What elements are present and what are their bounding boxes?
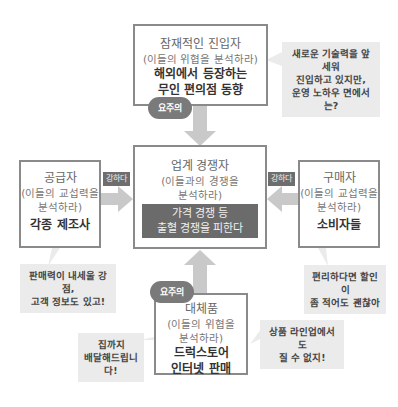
substitutes-sub-2: 분석하라) [156, 331, 246, 345]
bubble-line: 운영 노하우 면에서는? [288, 86, 374, 112]
substitutes-bold-1: 드럭스토어 [156, 345, 246, 361]
suppliers-sub-2: 분석하라) [21, 200, 99, 214]
bubble-line: 판매력이 내세울 강점, [26, 269, 110, 295]
caution-badge-bottom: 요주의 [152, 283, 192, 301]
suppliers-comment-bubble: 판매력이 내세울 강점, 고객 정보도 있고! [20, 264, 116, 313]
bubble-line: 질 수 없지! [266, 351, 338, 364]
bubble-line: 집까지 [84, 338, 138, 351]
substitutes-bold-2: 인터넷 판매 [156, 361, 246, 377]
suppliers-sub-1: (이들의 교섭력을 [21, 186, 99, 200]
bubble-line: 새로운 기술력을 앞세워 [288, 47, 374, 73]
buyers-sub-2: 분석하라) [300, 200, 378, 214]
substitutes-comment-bubble-right: 상품 라인업에서도 질 수 없지! [260, 320, 344, 369]
bubble-line: 상품 라인업에서도 [266, 325, 338, 351]
substitutes-title: 대체품 [156, 301, 246, 317]
bubble-line: 편리하다면 할인이 [310, 270, 380, 296]
suppliers-title: 공급자 [21, 170, 99, 186]
substitutes-box: 대체품 (이들의 위협을 분석하라) 드럭스토어 인터넷 판매 [154, 293, 248, 375]
highlight-line-1: 가격 경쟁 등 [142, 206, 258, 221]
bubble-line: 좀 적어도 괜찮아 [310, 296, 380, 309]
strong-tag-left: 강하다 [103, 172, 130, 186]
caution-badge-top: 요주의 [150, 99, 190, 117]
competitors-sub-2: 분석하라) [135, 188, 265, 202]
buyers-title: 구매자 [300, 170, 378, 186]
potential-entrants-box: 잠재적인 진입자 (이들의 위협을 분석하라) 해외에서 등장하는 무인 편의점… [133, 24, 268, 106]
bubble-line: 고객 정보도 있고! [26, 295, 110, 308]
buyers-comment-bubble: 편리하다면 할인이 좀 적어도 괜찮아 [304, 265, 386, 314]
potential-entrants-sub: (이들의 위협을 분석하라) [135, 52, 266, 66]
highlight-line-2: 출혈 경쟁을 피한다 [142, 221, 258, 236]
competitors-title: 업계 경쟁자 [135, 158, 265, 174]
potential-entrants-title: 잠재적인 진입자 [135, 36, 266, 52]
suppliers-box: 공급자 (이들의 교섭력을 분석하라) 각종 제조사 [19, 160, 101, 248]
potential-entrants-bold-2: 무인 편의점 동향 [135, 82, 266, 98]
potential-entrants-bold-1: 해외에서 등장하는 [135, 66, 266, 82]
competitors-sub-1: (이들과의 경쟁을 [135, 174, 265, 188]
substitutes-sub-1: (이들의 위협을 [156, 317, 246, 331]
bubble-line: 진입하고 있지만, [288, 73, 374, 86]
strong-tag-right: 강하다 [268, 172, 295, 186]
substitutes-comment-bubble-left: 집까지 배달해드립니다! [78, 333, 144, 382]
buyers-bold: 소비자들 [300, 217, 378, 233]
buyers-sub-1: (이들의 교섭력을 [300, 186, 378, 200]
buyers-box: 구매자 (이들의 교섭력을 분석하라) 소비자들 [298, 160, 380, 248]
competitors-highlight: 가격 경쟁 등 출혈 경쟁을 피한다 [142, 204, 258, 238]
bubble-line: 배달해드립니다! [84, 351, 138, 377]
suppliers-bold: 각종 제조사 [21, 217, 99, 233]
entrants-comment-bubble: 새로운 기술력을 앞세워 진입하고 있지만, 운영 노하우 면에서는? [282, 42, 380, 117]
